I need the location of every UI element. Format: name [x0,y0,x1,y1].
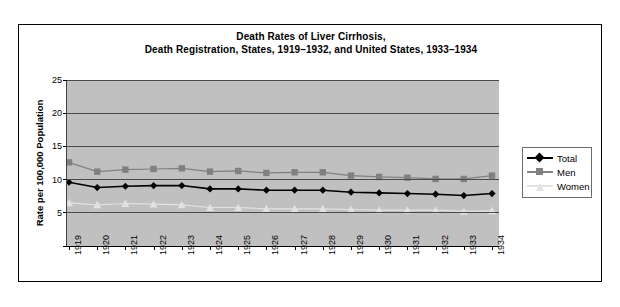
x-tick-label-1931: 1931 [411,235,421,255]
data-point-total-1925 [235,185,242,192]
y-tick-0 [63,246,67,247]
x-tick-label-1932: 1932 [440,235,450,255]
y-tick-label-25: 25 [52,75,62,85]
data-point-total-1932 [432,191,439,198]
legend-marker-square-icon [527,166,553,178]
data-point-total-1922 [150,182,157,189]
series-line-men [69,162,492,179]
data-point-total-1929 [347,189,354,196]
chart-legend: Total Men Women [522,147,592,198]
data-point-men-1927 [291,169,297,175]
y-tick-label-15: 15 [52,141,62,151]
gridline-y-5 [67,212,499,213]
data-point-total-1924 [206,185,213,192]
x-tick-label-1922: 1922 [158,235,168,255]
y-tick-20 [63,113,67,114]
legend-label-men: Men [553,167,575,178]
x-tick-1929 [351,246,352,250]
x-tick-1927 [295,246,296,250]
x-tick-1924 [210,246,211,250]
data-point-total-1928 [319,187,326,194]
series-line-women [69,203,492,212]
x-tick-label-1934: 1934 [496,235,506,255]
data-point-men-1922 [150,166,156,172]
legend-label-total: Total [553,153,577,164]
data-point-total-1931 [404,190,411,197]
chart-frame: Death Rates of Liver Cirrhosis, Death Re… [18,24,602,282]
data-point-total-1921 [122,183,129,190]
data-point-men-1921 [122,166,128,172]
data-point-total-1927 [291,187,298,194]
x-tick-label-1930: 1930 [383,235,393,255]
gridline-y-10 [67,179,499,180]
gridline-y-25 [67,80,499,81]
y-axis-title: Rate per 100,000 Population [34,80,46,246]
x-tick-label-1923: 1923 [186,235,196,255]
x-tick-1920 [97,246,98,250]
x-tick-label-1925: 1925 [242,235,252,255]
legend-label-women: Women [553,181,590,192]
gridline-y-15 [67,146,499,147]
x-tick-label-1924: 1924 [214,235,224,255]
x-tick-1926 [266,246,267,250]
data-point-men-1919 [67,159,72,165]
y-tick-10 [63,179,67,180]
chart-title-line1: Death Rates of Liver Cirrhosis, [19,30,603,43]
y-tick-25 [63,80,67,81]
data-point-total-1926 [263,187,270,194]
legend-item-men: Men [527,165,587,179]
chart-title-line2: Death Registration, States, 1919–1932, a… [19,43,603,56]
y-tick-5 [63,212,67,213]
series-layer [67,80,499,246]
x-tick-label-1929: 1929 [355,235,365,255]
x-tick-label-1921: 1921 [129,235,139,255]
data-point-men-1928 [320,169,326,175]
x-tick-1932 [436,246,437,250]
x-tick-label-1919: 1919 [73,235,83,255]
x-tick-1921 [125,246,126,250]
x-tick-label-1927: 1927 [299,235,309,255]
data-point-total-1934 [488,190,495,197]
data-point-total-1920 [94,184,101,191]
x-tick-label-1933: 1933 [468,235,478,255]
data-point-men-1925 [235,168,241,174]
data-point-total-1930 [376,189,383,196]
y-tick-label-5: 5 [57,208,62,218]
x-tick-1931 [407,246,408,250]
data-point-men-1924 [207,168,213,174]
data-point-men-1934 [489,172,495,178]
x-tick-1919 [69,246,70,250]
data-point-men-1920 [94,168,100,174]
legend-item-total: Total [527,151,587,165]
x-tick-1928 [323,246,324,250]
gridline-y-20 [67,113,499,114]
y-tick-label-10: 10 [52,175,62,185]
legend-item-women: Women [527,179,587,193]
data-point-men-1923 [179,165,185,171]
data-point-men-1929 [348,172,354,178]
x-tick-label-1920: 1920 [101,235,111,255]
x-tick-1930 [379,246,380,250]
data-point-total-1923 [178,182,185,189]
x-tick-1933 [464,246,465,250]
data-point-men-1926 [263,170,269,176]
legend-marker-triangle-icon [527,180,553,192]
y-tick-15 [63,146,67,147]
x-tick-1925 [238,246,239,250]
legend-marker-diamond-icon [527,152,553,164]
y-tick-label-20: 20 [52,108,62,118]
series-line-total [69,182,492,195]
x-tick-label-1926: 1926 [270,235,280,255]
data-point-total-1933 [460,192,467,199]
x-tick-1934 [492,246,493,250]
x-tick-1922 [154,246,155,250]
chart-figure: Death Rates of Liver Cirrhosis, Death Re… [0,0,620,307]
plot-area: 5101520251919192019211922192319241925192… [66,80,499,246]
x-tick-1923 [182,246,183,250]
chart-title: Death Rates of Liver Cirrhosis, Death Re… [19,30,603,56]
x-tick-label-1928: 1928 [327,235,337,255]
